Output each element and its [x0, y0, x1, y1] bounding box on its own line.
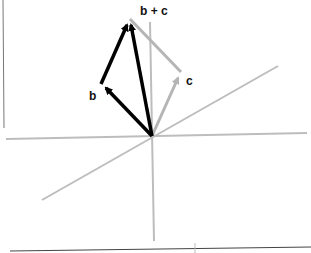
label-b-plus-c: b + c — [140, 4, 168, 18]
label-c: c — [186, 74, 193, 88]
vector-c — [152, 78, 178, 136]
vector-diagram — [0, 0, 311, 253]
vector-c-translated — [101, 25, 127, 84]
diagonal-axis — [42, 66, 278, 200]
left-border — [3, 0, 4, 128]
bottom-border — [10, 247, 311, 251]
label-b: b — [89, 89, 96, 103]
